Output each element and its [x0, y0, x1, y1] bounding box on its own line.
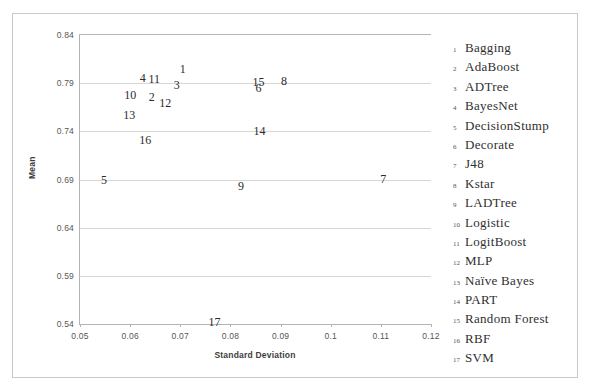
- x-tick-label: 0.12: [422, 331, 439, 341]
- legend-item-label: Logistic: [465, 215, 510, 231]
- y-tick-label: 0.59: [57, 271, 74, 281]
- x-tick-mark: [80, 324, 81, 327]
- legend-item: 2AdaBoost: [453, 59, 573, 78]
- legend: 1Bagging2AdaBoost3ADTree4BayesNet5Decisi…: [453, 40, 573, 370]
- data-point-label: 14: [254, 125, 266, 137]
- data-point-label: 10: [124, 89, 136, 101]
- legend-item: 15Random Forest: [453, 311, 573, 330]
- legend-item-label: ADTree: [465, 79, 509, 95]
- legend-item: 4BayesNet: [453, 98, 573, 117]
- legend-item-index: 9: [453, 201, 465, 209]
- legend-item: 16RBF: [453, 331, 573, 350]
- y-axis-title: Mean: [27, 156, 37, 179]
- plot-area: 0.840.790.740.690.640.590.540.050.060.07…: [79, 34, 431, 325]
- legend-item-index: 14: [453, 298, 465, 306]
- gridline-horizontal: [80, 276, 431, 277]
- x-tick-label: 0.05: [71, 331, 88, 341]
- legend-item-index: 8: [453, 182, 465, 190]
- data-point-label: 5: [101, 174, 107, 186]
- data-point-label: 13: [123, 109, 135, 121]
- legend-item-index: 3: [453, 85, 465, 93]
- x-tick-mark: [230, 324, 231, 327]
- legend-item-label: DecisionStump: [465, 118, 549, 134]
- legend-item-label: AdaBoost: [465, 59, 519, 75]
- legend-item-label: Bagging: [465, 40, 511, 56]
- data-point-label: 4: [140, 72, 146, 84]
- data-point-label: 16: [139, 134, 151, 146]
- legend-item-index: 12: [453, 259, 465, 267]
- legend-item-label: LogitBoost: [465, 234, 527, 250]
- legend-item-label: Naïve Bayes: [465, 273, 534, 289]
- legend-item-label: RBF: [465, 331, 490, 347]
- chart-figure: 0.840.790.740.690.640.590.540.050.060.07…: [12, 13, 578, 378]
- legend-item: 10Logistic: [453, 215, 573, 234]
- legend-item-index: 15: [453, 317, 465, 325]
- data-point-label: 7: [380, 173, 386, 185]
- x-tick-mark: [431, 324, 432, 327]
- x-tick-mark: [130, 324, 131, 327]
- legend-item-label: Decorate: [465, 137, 514, 153]
- x-tick-mark: [331, 324, 332, 327]
- x-tick-mark: [281, 324, 282, 327]
- legend-item: 8Kstar: [453, 176, 573, 195]
- y-tick-label: 0.64: [57, 223, 74, 233]
- data-point-label: 2: [149, 91, 155, 103]
- legend-item-label: LADTree: [465, 195, 517, 211]
- legend-item-label: SVM: [465, 350, 494, 366]
- legend-item: 9LADTree: [453, 195, 573, 214]
- legend-item: 7J48: [453, 156, 573, 175]
- legend-item: 14PART: [453, 292, 573, 311]
- legend-item-label: PART: [465, 292, 497, 308]
- x-tick-mark: [180, 324, 181, 327]
- legend-item-index: 10: [453, 221, 465, 229]
- legend-item-label: J48: [465, 156, 484, 172]
- legend-item: 11LogitBoost: [453, 234, 573, 253]
- data-point-label: 8: [281, 75, 287, 87]
- x-tick-label: 0.09: [272, 331, 289, 341]
- legend-item-label: MLP: [465, 253, 493, 269]
- data-point-label: 15: [253, 76, 265, 88]
- legend-item-label: Kstar: [465, 176, 495, 192]
- legend-item-index: 6: [453, 143, 465, 151]
- legend-item-index: 11: [453, 240, 465, 248]
- legend-item: 12MLP: [453, 253, 573, 272]
- y-tick-label: 0.79: [57, 78, 74, 88]
- data-point-label: 1: [180, 63, 186, 75]
- data-point-label: 12: [159, 97, 171, 109]
- legend-item: 13Naïve Bayes: [453, 273, 573, 292]
- data-point-label: 3: [174, 79, 180, 91]
- legend-item: 1Bagging: [453, 40, 573, 59]
- x-tick-label: 0.11: [372, 331, 389, 341]
- x-tick-label: 0.08: [222, 331, 239, 341]
- legend-item-index: 17: [453, 356, 465, 364]
- gridline-horizontal: [80, 180, 431, 181]
- data-point-label: 11: [148, 73, 160, 85]
- legend-item-index: 13: [453, 279, 465, 287]
- y-tick-label: 0.74: [57, 126, 74, 136]
- gridline-horizontal: [80, 228, 431, 229]
- data-point-label: 9: [238, 180, 244, 192]
- legend-item-index: 4: [453, 104, 465, 112]
- legend-item: 6Decorate: [453, 137, 573, 156]
- legend-item-index: 7: [453, 162, 465, 170]
- y-tick-label: 0.69: [57, 175, 74, 185]
- legend-item-label: BayesNet: [465, 98, 518, 114]
- x-tick-label: 0.1: [324, 331, 336, 341]
- legend-item: 3ADTree: [453, 79, 573, 98]
- legend-item-index: 1: [453, 46, 465, 54]
- legend-item-index: 5: [453, 124, 465, 132]
- y-tick-label: 0.54: [57, 319, 74, 329]
- legend-item: 17SVM: [453, 350, 573, 369]
- legend-item-label: Random Forest: [465, 311, 549, 327]
- x-tick-mark: [381, 324, 382, 327]
- x-axis-title: Standard Deviation: [79, 350, 431, 360]
- legend-item-index: 16: [453, 337, 465, 345]
- x-tick-label: 0.06: [121, 331, 138, 341]
- y-tick-label: 0.84: [57, 30, 74, 40]
- legend-item-index: 2: [453, 65, 465, 73]
- legend-item: 5DecisionStump: [453, 118, 573, 137]
- x-tick-label: 0.07: [172, 331, 189, 341]
- data-point-label: 17: [208, 316, 220, 328]
